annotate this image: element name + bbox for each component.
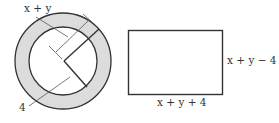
rectangle-figure: x + y − 4 x + y + 4 [129, 31, 277, 109]
outer-radius-label: x + y [24, 2, 51, 14]
rectangle [129, 31, 223, 95]
diagram: x + y 4 x + y − 4 x + y + 4 [0, 0, 279, 123]
inner-circle [29, 27, 97, 95]
rectangle-width-label: x + y + 4 [157, 96, 207, 108]
annulus-figure: x + y 4 [15, 2, 111, 113]
inner-radius-label: 4 [19, 101, 26, 113]
rectangle-height-label: x + y − 4 [227, 54, 277, 66]
